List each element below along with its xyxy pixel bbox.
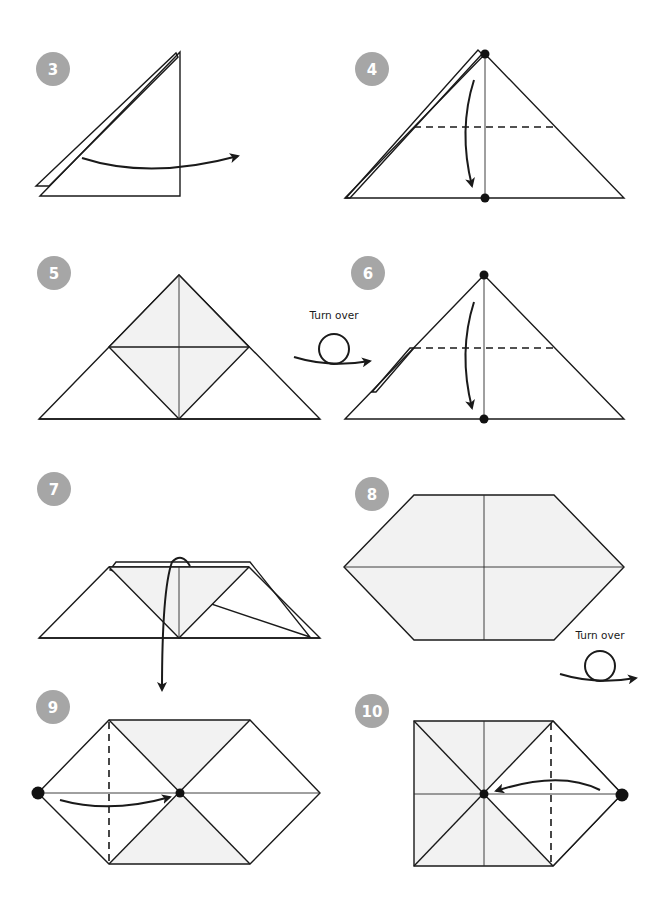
turn-over-loop-icon: [319, 334, 349, 364]
step-9: 9: [32, 690, 321, 864]
step-number: 8: [367, 486, 377, 504]
point-dot: [32, 787, 45, 800]
step-4: 4: [345, 50, 624, 203]
step-number: 9: [48, 699, 58, 717]
step-number: 7: [49, 481, 59, 499]
step-6: 6: [345, 256, 624, 424]
fold-arrow: [465, 80, 474, 186]
step-8: 8: [344, 477, 624, 640]
shaded-bottom-triangle: [109, 793, 250, 864]
turn-over-annotation: Turn over: [560, 629, 636, 681]
step-10: 10: [355, 694, 629, 866]
point-dot: [481, 194, 490, 203]
fold-arrow: [465, 302, 474, 408]
step-number: 10: [362, 703, 383, 721]
turn-over-label: Turn over: [574, 629, 625, 641]
point-dot: [480, 415, 489, 424]
step-7: 7: [37, 472, 320, 690]
step-5: 5: [37, 256, 320, 419]
turn-over-label: Turn over: [308, 309, 359, 321]
shaded-top-triangle: [109, 720, 250, 793]
step-3: 3: [36, 52, 238, 196]
center-dot: [480, 790, 489, 799]
turn-over-arrow-icon: [560, 674, 636, 681]
center-dot: [176, 789, 185, 798]
fold-arrow: [82, 156, 238, 169]
step-number: 6: [363, 265, 373, 283]
step-number: 3: [48, 61, 58, 79]
origami-diagram: 3 4 5 Turn over 6: [0, 0, 666, 911]
turn-over-annotation: Turn over: [294, 309, 370, 364]
step-number: 5: [49, 265, 59, 283]
turn-over-arrow-icon: [294, 357, 370, 364]
triangle: [345, 275, 624, 419]
point-dot: [480, 271, 489, 280]
step-number: 4: [367, 61, 377, 79]
point-dot: [481, 50, 490, 59]
point-dot: [616, 789, 629, 802]
fold-arrow: [60, 797, 170, 806]
turn-over-loop-icon: [585, 651, 615, 681]
